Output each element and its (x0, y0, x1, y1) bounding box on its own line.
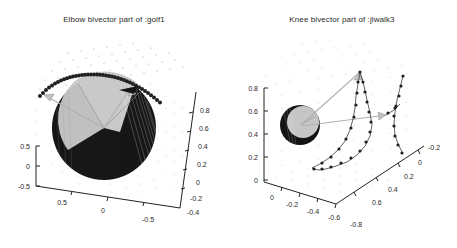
tick-label: -0.8 (350, 221, 362, 228)
tick-label: 0 (270, 194, 274, 201)
knee-trajectory (312, 70, 405, 170)
tick-label: -0.2 (190, 195, 202, 202)
tick-label: 0.4 (248, 131, 258, 138)
tick-label: 0.4 (198, 143, 208, 150)
tick-label: -0.2 (428, 144, 440, 151)
tick-label: 0.4 (388, 186, 398, 193)
tick-label: 0.2 (248, 154, 258, 161)
tick-label: 0.8 (248, 85, 258, 92)
tick-label: 0.2 (404, 173, 414, 180)
tick-label: 0 (196, 179, 200, 186)
tick-label: 0.8 (200, 107, 210, 114)
tick-label: 0.2 (197, 161, 207, 168)
tick-label: 0 (101, 207, 105, 214)
tick-label: 0.6 (248, 108, 258, 115)
tick-label: -0.5 (142, 216, 154, 223)
figure-knee-plot: 0.8 0.6 0.4 0.2 0 0 -0.2 -0.4 -0.6 -0.8 … (228, 0, 456, 248)
figure-knee: Knee bivector part of :jlwalk3 (228, 0, 456, 248)
tick-label: 0 (26, 163, 30, 170)
tick-label: -0.2 (286, 201, 298, 208)
tick-label: 0.6 (372, 199, 382, 206)
knee-tick-labels: 0.8 0.6 0.4 0.2 0 0 -0.2 -0.4 -0.6 -0.8 … (248, 85, 440, 228)
knee-sphere (280, 105, 320, 145)
figure-elbow: Elbow bivector part of :golf1 (0, 0, 228, 248)
tick-label: -0.4 (187, 209, 199, 216)
tick-label: 0.6 (199, 125, 209, 132)
tick-label: 0.5 (20, 143, 30, 150)
tick-label: 0 (254, 177, 258, 184)
tick-label: 0 (418, 159, 422, 166)
figure-elbow-plot: 0.5 0 -0.5 0.5 0 -0.5 0.8 0.6 0.4 0.2 0 … (0, 0, 228, 248)
tick-label: -0.4 (307, 208, 319, 215)
tick-label: 0.5 (57, 199, 67, 206)
tick-label: -0.5 (18, 183, 30, 190)
tick-label: -0.6 (328, 214, 340, 221)
